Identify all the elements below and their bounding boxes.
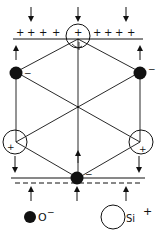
legend-silicon-label: Si <box>126 213 135 224</box>
plus-charge: + <box>27 27 35 38</box>
o-atom-bottom: − <box>71 169 93 185</box>
legend: O − Si + <box>24 205 152 229</box>
legend-silicon: Si + <box>101 205 152 229</box>
plus-charge: + <box>127 27 135 38</box>
top-surface-charges: + + + + + + + + + <box>16 27 135 38</box>
minus-charge: − <box>85 169 93 179</box>
legend-oxygen-label: O <box>38 211 47 224</box>
plus-charge: + <box>115 27 123 38</box>
plus-charge: + <box>52 27 60 38</box>
si-atom-right: + <box>129 130 153 154</box>
top-force-arrows <box>31 7 126 19</box>
legend-oxygen-charge: − <box>47 207 55 217</box>
minus-charge: − <box>24 68 32 78</box>
filled-circle-icon <box>24 211 36 223</box>
legend-silicon-charge: + <box>143 205 152 218</box>
o-atom-right: − <box>134 64 156 80</box>
si-atom-left: + <box>3 130 27 154</box>
plus-charge: + <box>16 27 24 38</box>
plus-charge: + <box>74 27 82 38</box>
lattice-center <box>77 106 79 108</box>
o-atom-left: − <box>10 67 32 80</box>
plus-charge: + <box>93 27 101 38</box>
open-circle-icon <box>101 205 125 229</box>
quartz-piezo-diagram: + + + + + + + + + − − <box>0 0 159 236</box>
legend-oxygen: O − <box>24 207 55 224</box>
bottom-force-arrows <box>31 189 126 201</box>
plus-charge: + <box>39 27 47 38</box>
plus-charge: + <box>104 27 112 38</box>
plus-charge: + <box>139 144 147 154</box>
plus-charge: + <box>7 142 15 152</box>
minus-charge: − <box>148 64 156 74</box>
